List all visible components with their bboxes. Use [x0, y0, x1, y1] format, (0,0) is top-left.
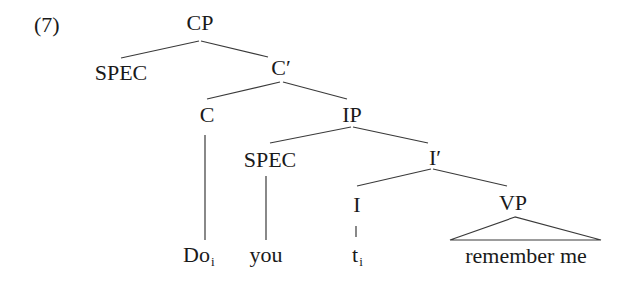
node-i-bar: I′ — [429, 145, 441, 170]
edge-cbar-ip — [283, 82, 347, 99]
example-number: (7) — [34, 12, 60, 37]
leaf-do-subscript: i — [211, 254, 215, 269]
tree-leaves: Doi you ti remember me — [183, 242, 587, 269]
edge-cp-cbar — [201, 41, 268, 57]
edge-ip-spec — [270, 127, 351, 143]
tree-edges — [121, 41, 601, 240]
node-spec-ip: SPEC — [244, 147, 297, 172]
edge-ibar-i — [357, 169, 431, 186]
syntax-tree-diagram: (7) CP SPEC C′ C IP SPEC I′ I VP Doi you… — [0, 0, 635, 282]
leaf-do: Doi — [183, 242, 215, 269]
leaf-trace-subscript: i — [359, 254, 363, 269]
node-ip: IP — [342, 102, 362, 127]
edge-ip-ibar — [353, 127, 428, 143]
edge-cp-spec — [121, 41, 199, 58]
tree-nodes: CP SPEC C′ C IP SPEC I′ I VP — [95, 10, 527, 217]
leaf-trace: ti — [352, 242, 363, 269]
leaf-you: you — [250, 242, 283, 267]
node-c-bar: C′ — [271, 55, 291, 80]
node-spec-cp: SPEC — [95, 60, 148, 85]
edge-cbar-c — [207, 82, 280, 99]
node-vp: VP — [499, 190, 527, 215]
leaf-vp-content: remember me — [465, 243, 587, 268]
vp-triangle — [450, 217, 601, 240]
node-c: C — [200, 102, 215, 127]
leaf-do-text: Do — [183, 242, 210, 267]
node-i: I — [353, 192, 360, 217]
node-cp: CP — [187, 10, 214, 35]
leaf-trace-text: t — [352, 242, 358, 267]
edge-ibar-vp — [433, 169, 507, 186]
